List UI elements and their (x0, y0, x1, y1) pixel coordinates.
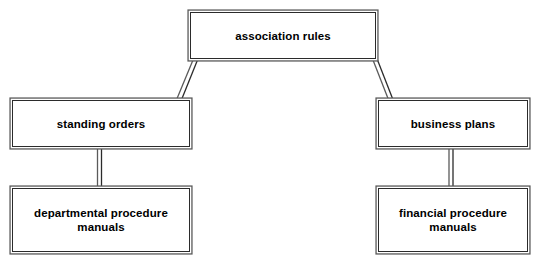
node-label: standing orders (51, 117, 151, 131)
connector-business-to-financial (449, 146, 453, 189)
node-standing-orders[interactable]: standing orders (12, 100, 190, 147)
node-label: business plans (405, 117, 501, 131)
node-association-rules[interactable]: association rules (190, 12, 376, 59)
node-financial-procedure-manuals[interactable]: financial procedure manuals (378, 188, 528, 252)
connector-root-to-business (373, 60, 394, 101)
node-business-plans[interactable]: business plans (378, 100, 528, 147)
connector-root-to-standing (176, 60, 198, 101)
node-label: financial procedure manuals (393, 206, 513, 234)
diagram-canvas: association rules standing orders busine… (0, 0, 533, 259)
node-label: association rules (229, 29, 337, 43)
node-departmental-procedure-manuals[interactable]: departmental procedure manuals (12, 188, 190, 252)
node-label: departmental procedure manuals (28, 206, 174, 234)
connector-standing-to-dept (98, 146, 102, 189)
